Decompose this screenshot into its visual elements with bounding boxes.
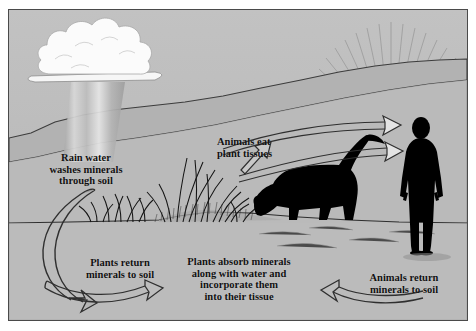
label-plants-return-minerals: Plants return minerals to soil xyxy=(61,257,179,280)
label-rain-water: Rain water washes minerals through soil xyxy=(27,152,145,187)
label-animals-eat-plant-tissues: Animals eat plant tissues xyxy=(217,136,327,159)
label-plants-absorb-minerals: Plants absorb minerals along with water … xyxy=(169,256,309,302)
label-animals-return-minerals: Animals return minerals to soil xyxy=(349,272,459,295)
diagram-frame: Rain water washes minerals through soil … xyxy=(8,9,468,321)
diagram-canvas: Rain water washes minerals through soil … xyxy=(0,0,476,331)
human-shadow xyxy=(403,253,451,261)
